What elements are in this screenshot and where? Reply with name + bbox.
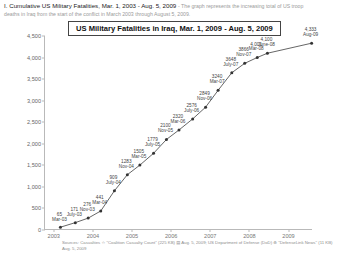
y-axis-tick-label: 2,500 — [27, 119, 41, 125]
data-point-marker — [74, 221, 77, 224]
y-axis-tick-label: 500 — [32, 205, 41, 211]
y-axis-tick-label: 4,500 — [27, 33, 41, 39]
data-point-value: 4,333 — [303, 28, 318, 33]
y-axis-tick-mark — [42, 230, 45, 231]
x-axis-tick-mark — [210, 229, 211, 232]
data-point-marker — [113, 189, 116, 192]
fatalities-line-series — [44, 36, 312, 230]
y-axis-tick-mark — [42, 165, 45, 166]
page-title-row: I. Cumulative US Military Fatalities, Ma… — [4, 2, 349, 10]
y-axis-tick-label: 1,500 — [27, 162, 41, 168]
plot-area: 05001,0001,5002,0002,5003,0003,5004,0004… — [44, 36, 312, 230]
data-point-marker — [126, 173, 129, 176]
data-point-marker — [99, 209, 102, 212]
y-axis-tick-mark — [42, 143, 45, 144]
y-axis-tick-label: 1,000 — [27, 184, 41, 190]
page-description-line1: - The graph represents the increasing to… — [178, 3, 303, 9]
x-axis-tick-label: 2006 — [165, 233, 177, 239]
data-point-marker — [87, 217, 90, 220]
data-point-marker — [217, 89, 220, 92]
data-point-marker — [243, 62, 246, 65]
x-axis-tick-label: 2009 — [282, 233, 294, 239]
y-axis-tick-label: 2,000 — [27, 141, 41, 147]
x-axis-tick-mark — [132, 229, 133, 232]
x-axis-tick-label: 2008 — [243, 233, 255, 239]
chart-source-footnote: Sources: Casualties ☆ "Coalition Casualt… — [62, 240, 347, 252]
x-axis-tick-mark — [92, 229, 93, 232]
data-point-marker — [266, 52, 269, 55]
x-axis-tick-mark — [288, 229, 289, 232]
data-point-marker — [177, 128, 180, 131]
y-axis-tick-mark — [42, 36, 45, 37]
data-point-marker — [138, 164, 141, 167]
data-point-marker — [204, 106, 207, 109]
x-axis-tick-mark — [171, 229, 172, 232]
series-line — [60, 43, 311, 227]
y-axis-tick-mark — [42, 100, 45, 101]
data-point-marker — [256, 56, 259, 59]
data-point-marker — [152, 152, 155, 155]
x-axis-tick-label: 2007 — [204, 233, 216, 239]
y-axis-tick-label: 3,000 — [27, 98, 41, 104]
footnote-line1: Sources: Casualties ☆ "Coalition Casualt… — [62, 240, 332, 245]
page-title: I. Cumulative US Military Fatalities, Ma… — [4, 2, 176, 9]
y-axis-tick-label: 4,000 — [27, 55, 41, 61]
x-axis-tick-mark — [249, 229, 250, 232]
y-axis-tick-label: 0 — [38, 227, 41, 233]
data-point-marker — [230, 71, 233, 74]
y-axis-tick-mark — [42, 186, 45, 187]
chart-title: US Military Fatalities in Iraq, Mar. 1, … — [68, 21, 281, 36]
y-axis-tick-label: 3,500 — [27, 76, 41, 82]
y-axis-tick-mark — [42, 122, 45, 123]
page-description-line2: deaths in Iraq from the start of the con… — [4, 11, 349, 18]
data-point-marker — [165, 138, 168, 141]
y-axis-tick-mark — [42, 208, 45, 209]
y-axis-tick-mark — [42, 79, 45, 80]
x-axis-tick-label: 2005 — [126, 233, 138, 239]
data-point-marker — [59, 226, 62, 229]
data-point-marker — [310, 42, 313, 45]
x-axis-tick-label: 2004 — [87, 233, 99, 239]
x-axis-tick-mark — [53, 229, 54, 232]
data-point-marker — [191, 117, 194, 120]
page-header: I. Cumulative US Military Fatalities, Ma… — [4, 2, 349, 17]
footnote-line2: Aug. 5, 2009 — [62, 246, 347, 252]
y-axis-tick-mark — [42, 57, 45, 58]
x-axis-tick-label: 2003 — [48, 233, 60, 239]
fatalities-chart: US Military Fatalities in Iraq, Mar. 1, … — [0, 18, 353, 264]
